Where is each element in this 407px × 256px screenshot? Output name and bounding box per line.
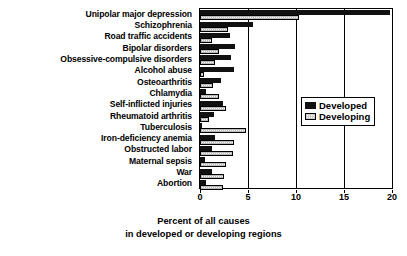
category-label: Alcohol abuse xyxy=(135,66,192,75)
bar-developing xyxy=(200,106,226,111)
bar-developing xyxy=(200,94,219,99)
category-label: Obsessive-compulsive disorders xyxy=(60,55,192,64)
x-tick-label: 10 xyxy=(291,193,301,202)
bar-developing xyxy=(200,15,299,20)
legend-label-developed: Developed xyxy=(319,101,367,111)
bar-chart: Unipolar major depressionSchizophreniaRo… xyxy=(0,0,407,256)
bar-developing xyxy=(200,151,233,156)
bar-developing xyxy=(200,117,209,122)
gridline-10 xyxy=(296,9,297,188)
category-label: Obstructed labor xyxy=(124,145,192,154)
category-label: Abortion xyxy=(157,179,192,188)
category-label: Bipolar disorders xyxy=(123,44,192,53)
chart-legend: Developed Developing xyxy=(301,97,375,126)
legend-item-developing: Developing xyxy=(305,111,370,122)
category-label: Osteoarthritis xyxy=(137,78,192,87)
bar-developing xyxy=(200,128,246,133)
category-label: Iron-deficiency anemia xyxy=(101,134,192,143)
bar-developing xyxy=(200,140,234,145)
category-label: Self-inflicted injuries xyxy=(110,100,192,109)
bar-developed xyxy=(200,67,234,72)
x-axis-title-line2: in developed or developing regions xyxy=(0,228,407,241)
bar-developing xyxy=(200,72,204,77)
x-tick-label: 15 xyxy=(339,193,349,202)
legend-swatch-developed-icon xyxy=(305,102,316,109)
x-axis-ticks: 05101520 xyxy=(199,190,393,202)
category-label: Chlamydia xyxy=(149,89,192,98)
bar-developing xyxy=(200,38,212,43)
category-label: Schizophrenia xyxy=(135,21,192,30)
category-label: Road traffic accidents xyxy=(104,32,192,41)
category-label: Unipolar major depression xyxy=(86,10,192,19)
category-axis-labels: Unipolar major depressionSchizophreniaRo… xyxy=(0,8,196,189)
x-tick-label: 0 xyxy=(197,193,202,202)
bar-developing xyxy=(200,174,224,179)
category-label: Maternal sepsis xyxy=(129,157,192,166)
bar-developing xyxy=(200,162,226,167)
bar-developing xyxy=(200,49,219,54)
legend-label-developing: Developing xyxy=(319,112,370,122)
bar-developing xyxy=(200,83,213,88)
category-label: War xyxy=(176,168,192,177)
legend-item-developed: Developed xyxy=(305,100,370,111)
legend-swatch-developing-icon xyxy=(305,113,316,120)
x-axis-title: Percent of all causes in developed or de… xyxy=(0,215,407,240)
bar-developing xyxy=(200,60,215,65)
category-label: Rheumatoid arthritis xyxy=(110,112,192,121)
x-tick-label: 20 xyxy=(387,193,397,202)
x-tick-label: 5 xyxy=(245,193,250,202)
bar-developing xyxy=(200,27,228,32)
x-axis-title-line1: Percent of all causes xyxy=(157,216,250,226)
category-label: Tuberculosis xyxy=(140,123,192,132)
gridline-5 xyxy=(248,9,249,188)
